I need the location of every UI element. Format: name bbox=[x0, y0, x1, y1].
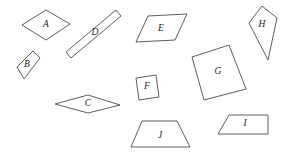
quadrilaterals-figure: ABCDEFGHIJ bbox=[0, 0, 287, 155]
shape-label-e: E bbox=[157, 23, 164, 33]
shape-h[interactable]: H bbox=[249, 6, 277, 60]
shape-i[interactable]: I bbox=[218, 115, 268, 134]
shape-label-d: D bbox=[91, 27, 99, 37]
shape-b[interactable]: B bbox=[17, 51, 40, 79]
shape-label-h: H bbox=[258, 19, 267, 29]
shape-label-b: B bbox=[24, 59, 30, 69]
shape-outline-h[interactable] bbox=[249, 6, 277, 60]
shape-label-c: C bbox=[85, 98, 92, 108]
shape-c[interactable]: C bbox=[55, 95, 120, 113]
shape-d[interactable]: D bbox=[66, 10, 121, 58]
figure-canvas: ABCDEFGHIJ bbox=[0, 0, 287, 155]
shape-label-f: F bbox=[143, 81, 150, 91]
shape-layer: ABCDEFGHIJ bbox=[17, 6, 277, 147]
shape-j[interactable]: J bbox=[131, 121, 190, 147]
shape-g[interactable]: G bbox=[192, 45, 246, 100]
shape-label-a: A bbox=[42, 19, 49, 29]
shape-e[interactable]: E bbox=[136, 14, 187, 42]
shape-f[interactable]: F bbox=[136, 75, 159, 100]
shape-label-g: G bbox=[215, 66, 222, 76]
shape-a[interactable]: A bbox=[22, 10, 70, 40]
